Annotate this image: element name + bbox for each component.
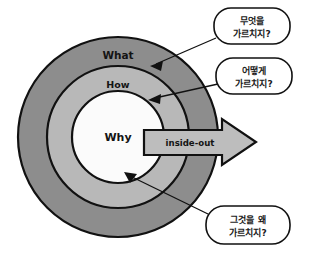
diagram-canvas: What How Why inside-out 무엇을 가르치지? 어떻게 가르…: [0, 0, 310, 260]
callout-why[interactable]: 그것을 왜 가르치지?: [206, 206, 290, 244]
callout-what-line2: 가르치지?: [233, 28, 270, 39]
callout-how-line1: 어떻게: [242, 65, 266, 76]
callout-why-line2: 가르치지?: [229, 227, 266, 238]
ring-label-what: What: [102, 49, 133, 61]
golden-circle-figure: What How Why inside-out 무엇을 가르치지? 어떻게 가르…: [0, 0, 310, 260]
ring-label-how: How: [106, 79, 129, 90]
ring-label-why: Why: [104, 131, 131, 144]
arrow-label-inside-out: inside-out: [166, 138, 215, 148]
callout-how[interactable]: 어떻게 가르치지?: [216, 58, 292, 94]
callout-what-line1: 무엇을: [240, 16, 264, 26]
callout-how-line2: 가르치지?: [235, 78, 272, 89]
callout-why-bubble: [206, 206, 290, 244]
callout-what[interactable]: 무엇을 가르치지?: [214, 8, 290, 44]
callout-why-line1: 그것을 왜: [230, 214, 265, 225]
